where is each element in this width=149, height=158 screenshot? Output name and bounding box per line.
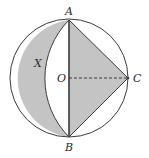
label-a: A <box>64 5 73 18</box>
label-b: B <box>64 141 73 154</box>
label-x: X <box>33 57 43 70</box>
label-o: O <box>57 72 66 85</box>
geometry-figure: A B C O X <box>0 0 149 158</box>
label-c: C <box>133 72 142 85</box>
point-c-dot <box>127 77 130 80</box>
